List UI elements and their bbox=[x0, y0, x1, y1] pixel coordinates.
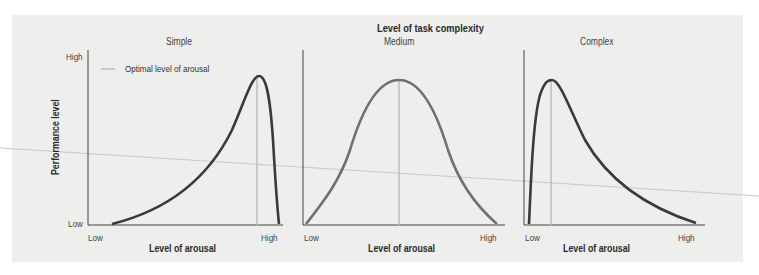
complex-x-label: Level of arousal bbox=[563, 243, 630, 254]
panel-title-medium: Medium bbox=[384, 36, 414, 47]
y-axis-label: Performance level bbox=[50, 99, 61, 175]
simple-curve bbox=[112, 76, 279, 224]
y-tick-low: Low bbox=[68, 218, 83, 229]
medium-x-label: Level of arousal bbox=[368, 243, 435, 254]
complex-x-tick-low: Low bbox=[525, 232, 540, 243]
chart-title: Level of task complexity bbox=[377, 22, 484, 34]
simple-x-label: Level of arousal bbox=[149, 243, 216, 254]
scan-line bbox=[0, 148, 759, 196]
panel-title-complex: Complex bbox=[580, 36, 614, 47]
simple-axes bbox=[88, 50, 283, 225]
simple-x-tick-low: Low bbox=[88, 232, 103, 243]
medium-curve bbox=[306, 80, 497, 224]
panel-title-simple: Simple bbox=[166, 36, 192, 47]
y-tick-high: High bbox=[66, 51, 83, 62]
legend-label: Optimal level of arousal bbox=[125, 63, 209, 74]
simple-x-tick-high: High bbox=[261, 232, 278, 243]
complex-curve bbox=[529, 80, 696, 224]
medium-x-tick-high: High bbox=[480, 232, 497, 243]
medium-x-tick-low: Low bbox=[304, 232, 319, 243]
chart-graphics bbox=[0, 0, 759, 275]
complex-x-tick-high: High bbox=[678, 232, 695, 243]
